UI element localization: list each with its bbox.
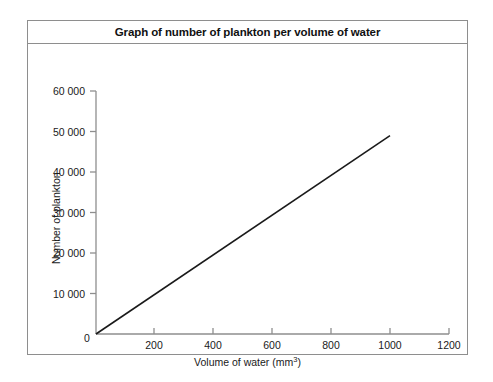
y-tick-label: 10 000: [28, 288, 85, 300]
x-axis-title: Volume of water (mm3): [28, 356, 467, 368]
y-axis-title: Number of plankton: [50, 172, 62, 264]
x-tick-label: 200: [145, 339, 163, 351]
x-tick-label: 800: [322, 339, 340, 351]
x-tick-label: 400: [204, 339, 222, 351]
y-tick-label: 60 000: [28, 85, 85, 97]
chart-figure-frame: Graph of number of plankton per volume o…: [27, 20, 468, 355]
x-tick-label: 1200: [437, 339, 460, 351]
x-axis-ticks: [154, 328, 449, 334]
y-tick-label: 50 000: [28, 126, 85, 138]
axes-and-series: [28, 44, 467, 354]
x-tick-label: 1000: [378, 339, 401, 351]
chart-title: Graph of number of plankton per volume o…: [115, 26, 381, 38]
data-series-line: [96, 136, 390, 334]
plot-area: 60 000 50 000 40 000 30 000 20 000 10 00…: [28, 44, 467, 354]
chart-title-bar: Graph of number of plankton per volume o…: [28, 21, 467, 44]
x-axis-title-text: Volume of water (mm: [194, 356, 293, 368]
x-axis-title-tail: ): [297, 356, 301, 368]
x-tick-label: 600: [263, 339, 281, 351]
origin-tick-label: 0: [84, 332, 90, 344]
y-axis-ticks: [90, 91, 96, 294]
